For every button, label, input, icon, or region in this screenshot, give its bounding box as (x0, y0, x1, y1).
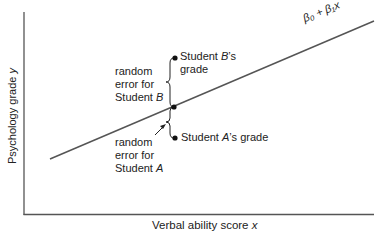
label-text: error for (115, 78, 154, 90)
student-a-point (172, 135, 177, 140)
label-text: ’s grade (229, 131, 268, 143)
label-text: ’s (228, 50, 236, 62)
label-text: Student (180, 50, 221, 62)
y-axis-variable: y (6, 68, 18, 74)
label-text: Student (181, 131, 222, 143)
student-a-error-brace (166, 107, 174, 138)
arrow-head-icon (160, 124, 166, 129)
x-axis-label-text: Verbal ability score (152, 219, 249, 231)
student-a-grade-label: Student A’s grade (181, 131, 268, 144)
label-text: error for (115, 149, 154, 161)
x-axis-label: Verbal ability score x (152, 219, 257, 232)
x-axis-variable: x (252, 219, 258, 231)
label-text: random (115, 65, 152, 77)
label-text: Student (115, 162, 156, 174)
label-text: random (115, 136, 152, 148)
regression-diagram (0, 0, 387, 234)
student-b-grade-label: Student B’s grade (180, 50, 236, 76)
label-text: Student (115, 91, 156, 103)
regression-point (171, 104, 176, 109)
y-axis-label: Psychology grade y (6, 66, 18, 166)
student-b-error-label: random error for Student B (115, 65, 163, 104)
label-text: grade (180, 63, 208, 75)
label-variable: A (156, 162, 163, 174)
y-axis-label-text: Psychology grade (6, 77, 18, 164)
label-variable: B (156, 91, 163, 103)
student-b-point (172, 55, 177, 60)
student-a-error-label: random error for Student A (115, 136, 163, 175)
student-b-error-brace (166, 58, 174, 107)
